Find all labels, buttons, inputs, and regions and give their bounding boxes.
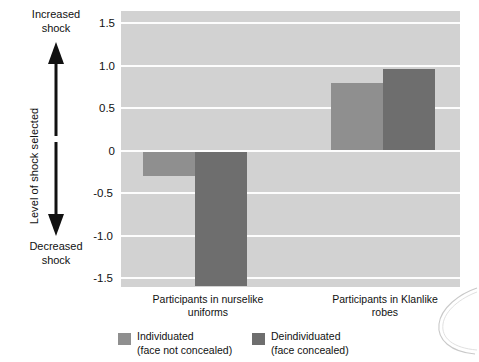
gridline-neg0_5 bbox=[121, 192, 460, 194]
y-tick-label-neg1_0: -1.0 bbox=[73, 230, 113, 242]
x-category-nurselike-line1: Participants in nurselike bbox=[153, 293, 264, 305]
y-tick-label-1_0: 1.0 bbox=[75, 60, 115, 72]
legend-swatch-individuated-icon bbox=[118, 333, 131, 345]
legend-label-deindividuated-line1: Deindividuated bbox=[271, 330, 340, 342]
legend-label-individuated-line1: Individuated bbox=[137, 330, 194, 342]
gridline-1_0 bbox=[121, 65, 460, 67]
x-category-label-klanlike: Participants in Klanlike robes bbox=[300, 293, 470, 319]
gridline-neg1_0 bbox=[121, 235, 460, 237]
x-category-klanlike-line2: robes bbox=[372, 306, 398, 318]
y-tick-label-0_5: 0.5 bbox=[75, 102, 115, 114]
legend-item-individuated: Individuated (face not concealed) bbox=[118, 329, 268, 359]
x-category-klanlike-line1: Participants in Klanlike bbox=[332, 293, 438, 305]
bar-klanlike-deindividuated bbox=[383, 69, 435, 150]
increased-shock-line1: Increased bbox=[32, 8, 80, 20]
legend-label-individuated-line2: (face not concealed) bbox=[137, 343, 232, 357]
bar-klanlike-individuated bbox=[331, 83, 383, 150]
decreased-shock-line2: shock bbox=[42, 254, 71, 266]
y-tick-label-neg0_5: -0.5 bbox=[73, 187, 113, 199]
legend-label-individuated: Individuated (face not concealed) bbox=[137, 329, 232, 357]
y-tick-label-1_5: 1.5 bbox=[75, 17, 115, 29]
increased-shock-line2: shock bbox=[42, 22, 71, 34]
legend-label-deindividuated: Deindividuated (face concealed) bbox=[271, 329, 349, 357]
legend-label-deindividuated-line2: (face concealed) bbox=[271, 343, 349, 357]
x-category-nurselike-line2: uniforms bbox=[188, 306, 228, 318]
plot-area bbox=[121, 11, 460, 287]
legend-swatch-deindividuated-icon bbox=[252, 333, 265, 345]
bar-chart-figure: Level of shock selected Increased shock … bbox=[0, 0, 479, 362]
x-category-label-nurselike: Participants in nurselike uniforms bbox=[121, 293, 295, 319]
y-tick-label-neg1_5: -1.5 bbox=[73, 272, 113, 284]
decreased-shock-caption: Decreased shock bbox=[14, 240, 98, 267]
bar-nurselike-deindividuated bbox=[195, 152, 247, 286]
bar-nurselike-individuated bbox=[143, 152, 195, 176]
gridline-neg1_5 bbox=[121, 277, 460, 279]
legend-item-deindividuated: Deindividuated (face concealed) bbox=[252, 329, 412, 359]
y-tick-label-0: 0 bbox=[75, 145, 115, 157]
gridline-1_5 bbox=[121, 22, 460, 24]
